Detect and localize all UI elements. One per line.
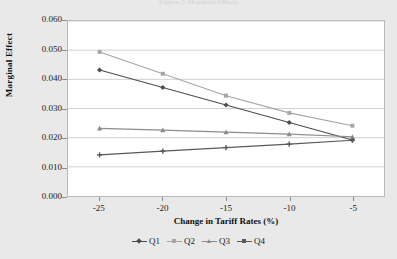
legend-marker	[242, 239, 246, 243]
legend-marker	[136, 238, 142, 244]
data-point-marker	[161, 72, 165, 76]
x-tick-label: -15	[206, 203, 246, 213]
legend-item-q1[interactable]: Q1	[132, 236, 160, 246]
y-tick-label: 0.040	[16, 73, 62, 83]
legend-marker	[172, 239, 176, 243]
legend-swatch-q2-icon	[167, 237, 182, 246]
series-line-q2	[100, 52, 353, 126]
data-point-marker	[160, 149, 165, 154]
x-axis-title: Change in Tariff Rates (%)	[67, 216, 385, 226]
legend-label: Q3	[219, 236, 230, 246]
y-tick-label: 0.010	[16, 162, 62, 172]
y-tick-label: 0.030	[16, 103, 62, 113]
x-tick-label: -25	[79, 203, 119, 213]
series-lines	[68, 21, 384, 196]
legend-marker	[207, 239, 211, 243]
x-tick-mark	[162, 197, 163, 201]
data-point-marker	[223, 102, 228, 107]
y-tick-label: 0.020	[16, 132, 62, 142]
x-tick-label: -10	[270, 203, 310, 213]
data-point-marker	[160, 85, 165, 90]
y-tick-label: 0.000	[16, 191, 62, 201]
x-tick-mark	[226, 197, 227, 201]
data-point-marker	[223, 145, 228, 150]
data-point-marker	[287, 120, 292, 125]
y-axis-title: Marginal Effect	[4, 0, 14, 130]
x-tick-mark	[99, 197, 100, 201]
data-point-marker	[224, 94, 228, 98]
legend-swatch-q1-icon	[132, 237, 147, 246]
plot-area	[67, 20, 385, 197]
legend-item-q3[interactable]: Q3	[202, 236, 230, 246]
data-point-marker	[98, 50, 102, 54]
chart-legend: Q1Q2Q3Q4	[0, 236, 397, 246]
legend-item-q2[interactable]: Q2	[167, 236, 195, 246]
data-point-marker	[350, 124, 354, 128]
legend-swatch-q4-icon	[237, 237, 252, 246]
legend-label: Q4	[254, 236, 265, 246]
data-point-marker	[287, 142, 292, 147]
y-axis-ticks: 0.0000.0100.0200.0300.0400.0500.060	[12, 20, 62, 197]
data-point-marker	[287, 111, 291, 115]
figure-caption: Figure 2. Marginal Effects	[0, 0, 397, 5]
x-tick-mark	[290, 197, 291, 201]
legend-swatch-q3-icon	[202, 237, 217, 246]
legend-label: Q1	[149, 236, 160, 246]
data-point-marker	[97, 152, 102, 157]
legend-label: Q2	[184, 236, 195, 246]
data-point-marker	[97, 67, 102, 72]
x-tick-label: -20	[142, 203, 182, 213]
legend-item-q4[interactable]: Q4	[237, 236, 265, 246]
chart-page: Figure 2. Marginal Effects 0.0000.0100.0…	[0, 0, 397, 259]
x-tick-label: -5	[333, 203, 373, 213]
y-tick-label: 0.060	[16, 14, 62, 24]
y-tick-label: 0.050	[16, 44, 62, 54]
x-tick-mark	[353, 197, 354, 201]
